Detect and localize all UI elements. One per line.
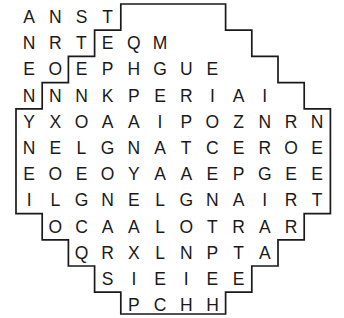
grid-cell[interactable]: E xyxy=(95,30,121,56)
grid-cell[interactable]: O xyxy=(42,161,68,187)
grid-cell[interactable]: C xyxy=(68,214,94,240)
grid-cell[interactable]: O xyxy=(278,135,304,161)
grid-cell[interactable]: E xyxy=(199,56,225,82)
grid-cell[interactable]: P xyxy=(121,83,147,109)
grid-cell[interactable]: N xyxy=(16,30,42,56)
grid-cell[interactable]: P xyxy=(199,240,225,266)
grid-cell[interactable]: K xyxy=(95,83,121,109)
grid-cell[interactable]: Y xyxy=(121,161,147,187)
grid-cell[interactable]: I xyxy=(252,83,278,109)
grid-cell[interactable]: A xyxy=(226,83,252,109)
grid-cell[interactable]: N xyxy=(68,83,94,109)
grid-cell[interactable]: T xyxy=(173,135,199,161)
grid-cell[interactable]: G xyxy=(173,187,199,213)
grid-cell[interactable]: H xyxy=(199,292,225,318)
grid-cell[interactable]: N xyxy=(199,187,225,213)
grid-cell[interactable]: E xyxy=(121,187,147,213)
grid-cell[interactable]: A xyxy=(252,214,278,240)
grid-cell[interactable]: G xyxy=(147,56,173,82)
grid-cell[interactable]: O xyxy=(199,109,225,135)
grid-cell[interactable]: N xyxy=(42,4,68,30)
grid-cell[interactable]: Q xyxy=(121,30,147,56)
grid-cell[interactable]: R xyxy=(278,214,304,240)
grid-cell[interactable]: E xyxy=(147,83,173,109)
grid-cell[interactable]: T xyxy=(68,30,94,56)
grid-cell[interactable]: G xyxy=(252,161,278,187)
grid-cell[interactable]: O xyxy=(42,214,68,240)
grid-cell[interactable]: E xyxy=(304,161,330,187)
grid-cell[interactable]: E xyxy=(199,266,225,292)
grid-cell[interactable]: H xyxy=(121,56,147,82)
grid-cell[interactable]: I xyxy=(121,266,147,292)
grid-cell[interactable]: L xyxy=(68,135,94,161)
grid-cell[interactable]: A xyxy=(226,187,252,213)
grid-cell[interactable]: N xyxy=(16,135,42,161)
grid-cell[interactable]: E xyxy=(278,161,304,187)
grid-cell[interactable]: I xyxy=(252,187,278,213)
grid-cell[interactable]: A xyxy=(173,161,199,187)
grid-cell[interactable]: C xyxy=(199,135,225,161)
grid-cell[interactable]: R xyxy=(173,83,199,109)
grid-cell[interactable]: I xyxy=(16,187,42,213)
grid-cell[interactable]: T xyxy=(95,4,121,30)
grid-cell[interactable]: N xyxy=(304,109,330,135)
grid-cell[interactable]: N xyxy=(42,83,68,109)
grid-cell[interactable]: E xyxy=(226,266,252,292)
grid-cell[interactable]: A xyxy=(16,4,42,30)
grid-cell[interactable]: N xyxy=(95,187,121,213)
grid-cell[interactable]: I xyxy=(199,83,225,109)
grid-cell[interactable]: E xyxy=(147,266,173,292)
grid-cell[interactable]: P xyxy=(173,109,199,135)
grid-cell[interactable]: E xyxy=(68,161,94,187)
grid-cell[interactable]: T xyxy=(304,187,330,213)
grid-cell[interactable]: X xyxy=(42,109,68,135)
grid-cell[interactable]: S xyxy=(68,4,94,30)
grid-cell[interactable]: A xyxy=(95,214,121,240)
grid-cell[interactable]: U xyxy=(173,56,199,82)
grid-cell[interactable]: O xyxy=(95,161,121,187)
grid-cell[interactable]: E xyxy=(226,135,252,161)
grid-cell[interactable]: N xyxy=(16,83,42,109)
grid-cell[interactable]: G xyxy=(68,187,94,213)
grid-cell[interactable]: E xyxy=(304,135,330,161)
grid-cell[interactable]: I xyxy=(147,109,173,135)
grid-cell[interactable]: H xyxy=(173,292,199,318)
grid-cell[interactable]: E xyxy=(199,161,225,187)
grid-cell[interactable]: C xyxy=(147,292,173,318)
grid-cell[interactable]: S xyxy=(95,266,121,292)
grid-cell[interactable]: Z xyxy=(226,109,252,135)
grid-cell[interactable]: L xyxy=(147,240,173,266)
grid-cell[interactable]: E xyxy=(16,56,42,82)
grid-cell[interactable]: T xyxy=(226,240,252,266)
grid-cell[interactable]: M xyxy=(147,30,173,56)
grid-cell[interactable]: R xyxy=(226,214,252,240)
grid-cell[interactable]: E xyxy=(16,161,42,187)
grid-cell[interactable]: N xyxy=(252,109,278,135)
grid-cell[interactable]: N xyxy=(173,240,199,266)
grid-cell[interactable]: A xyxy=(95,109,121,135)
grid-cell[interactable]: Y xyxy=(16,109,42,135)
grid-cell[interactable]: G xyxy=(95,135,121,161)
grid-cell[interactable]: A xyxy=(147,161,173,187)
grid-cell[interactable]: O xyxy=(68,109,94,135)
grid-cell[interactable]: I xyxy=(173,266,199,292)
grid-cell[interactable]: N xyxy=(121,135,147,161)
grid-cell[interactable]: Q xyxy=(68,240,94,266)
grid-cell[interactable]: A xyxy=(121,109,147,135)
grid-cell[interactable]: R xyxy=(95,240,121,266)
grid-cell[interactable]: R xyxy=(278,187,304,213)
grid-cell[interactable]: R xyxy=(42,30,68,56)
grid-cell[interactable]: R xyxy=(278,109,304,135)
grid-cell[interactable]: E xyxy=(68,56,94,82)
grid-cell[interactable]: O xyxy=(42,56,68,82)
grid-cell[interactable]: O xyxy=(173,214,199,240)
grid-cell[interactable]: A xyxy=(252,240,278,266)
grid-cell[interactable]: P xyxy=(95,56,121,82)
grid-cell[interactable]: X xyxy=(121,240,147,266)
grid-cell[interactable]: L xyxy=(147,214,173,240)
grid-cell[interactable]: R xyxy=(252,135,278,161)
grid-cell[interactable]: L xyxy=(147,187,173,213)
grid-cell[interactable]: L xyxy=(42,187,68,213)
grid-cell[interactable]: A xyxy=(147,135,173,161)
grid-cell[interactable]: A xyxy=(121,214,147,240)
